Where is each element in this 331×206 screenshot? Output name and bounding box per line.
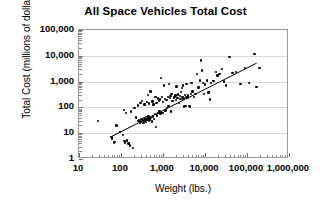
y-tick-label: 100 <box>18 101 74 111</box>
chart-container: All Space Vehicles Total Cost Total Cost… <box>0 0 331 206</box>
trendline-segment <box>112 63 257 136</box>
plot-area <box>78 29 288 158</box>
y-tick-label: 10 <box>18 127 74 137</box>
x-axis-label: Weight (lbs.) <box>78 183 288 194</box>
trendline <box>79 30 289 159</box>
x-tick-label: 1,000,000 <box>253 162 323 173</box>
y-tick-major <box>79 159 83 160</box>
y-tick-label: 10,000 <box>18 50 74 60</box>
y-tick-label: 100,000 <box>18 24 74 34</box>
y-axis-tick-labels: 1101001,00010,000100,000 <box>14 0 74 206</box>
y-tick-label: 1,000 <box>18 76 74 86</box>
x-tick-major <box>289 153 290 157</box>
